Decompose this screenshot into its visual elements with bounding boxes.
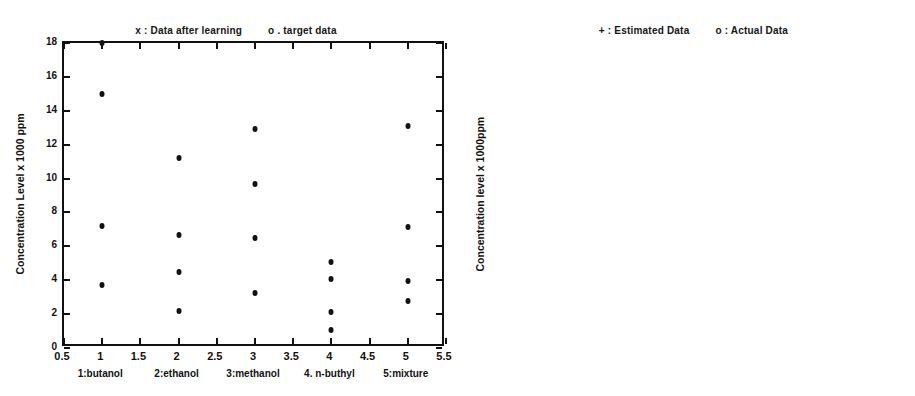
x-tick-label: 2.5 xyxy=(207,350,222,362)
y-tick-label: 2 xyxy=(0,307,57,318)
y-tick-label: 12 xyxy=(0,137,57,148)
x-tick-top xyxy=(292,43,294,49)
x-tick xyxy=(330,338,332,344)
x-tick xyxy=(178,338,180,344)
x-tick-label: 1.5 xyxy=(131,350,146,362)
category-label: 4. n-buthyl xyxy=(304,368,355,379)
y-tick-right xyxy=(436,245,442,247)
y-tick-label: 16 xyxy=(0,69,57,80)
data-point-dot xyxy=(100,91,105,97)
data-point-dot xyxy=(176,155,181,161)
y-tick-label: 10 xyxy=(0,171,57,182)
y-tick-label: 16 xyxy=(460,36,915,47)
y-tick-label: 0 xyxy=(460,341,915,352)
data-point-dot xyxy=(253,126,258,132)
y-tick-label: 8 xyxy=(0,205,57,216)
x-tick-top xyxy=(445,43,447,49)
data-point-dot xyxy=(405,298,410,304)
x-tick-top xyxy=(101,43,103,49)
data-point-dot xyxy=(100,223,105,229)
x-tick-label: 4 xyxy=(326,350,332,362)
y-tick-label: 4 xyxy=(460,264,915,275)
y-tick-label: 2 xyxy=(460,302,915,313)
x-tick-label: 5 xyxy=(403,350,409,362)
x-tick-label: 5.5 xyxy=(436,350,451,362)
x-tick xyxy=(369,338,371,344)
y-tick-right xyxy=(436,42,442,44)
data-point-dot xyxy=(253,290,258,296)
x-tick xyxy=(216,338,218,344)
y-tick-right xyxy=(436,347,442,349)
data-point-dot xyxy=(253,181,258,187)
x-tick-top xyxy=(139,43,141,49)
x-tick-label: 3.5 xyxy=(284,350,299,362)
legend-entry-actual: o : Actual Data xyxy=(715,25,788,36)
x-tick xyxy=(63,338,65,344)
data-point-dot xyxy=(176,308,181,314)
data-point-dot xyxy=(405,123,410,129)
y-tick-label: 18 xyxy=(0,36,57,47)
data-point-dot xyxy=(405,278,410,284)
x-tick xyxy=(292,338,294,344)
category-label: 2:ethanol xyxy=(154,368,198,379)
x-tick-top xyxy=(407,43,409,49)
x-tick xyxy=(407,338,409,344)
data-point-dot xyxy=(329,309,334,315)
x-tick xyxy=(445,338,447,344)
x-tick xyxy=(139,338,141,344)
y-tick xyxy=(64,313,70,315)
y-tick-right xyxy=(436,313,442,315)
chart-left: x : Data after learningo . target data C… xyxy=(0,0,460,396)
x-tick xyxy=(101,338,103,344)
legend-entry-estimated: + : Estimated Data xyxy=(599,25,690,36)
x-tick-label: 2 xyxy=(174,350,180,362)
y-tick xyxy=(64,76,70,78)
y-tick-label: 6 xyxy=(460,226,915,237)
y-tick-label: 0 xyxy=(0,341,57,352)
y-tick-label: 4 xyxy=(0,273,57,284)
y-tick-right xyxy=(436,144,442,146)
y-tick-right xyxy=(436,178,442,180)
y-tick-label: 6 xyxy=(0,239,57,250)
data-point-dot xyxy=(329,259,334,265)
category-label: 5:mixture xyxy=(383,368,428,379)
y-tick-right xyxy=(436,211,442,213)
chart-left-plot-area xyxy=(62,41,444,346)
legend-entry-learned: x : Data after learning xyxy=(135,25,242,36)
x-tick xyxy=(254,338,256,344)
x-tick-label: 1 xyxy=(97,350,103,362)
category-label: 1:butanol xyxy=(78,368,123,379)
y-tick-label: 8 xyxy=(460,188,915,199)
y-tick-label: 14 xyxy=(460,74,915,85)
y-tick xyxy=(64,110,70,112)
y-tick xyxy=(64,178,70,180)
x-tick-label: 3 xyxy=(250,350,256,362)
chart-right: + : Estimated Datao : Actual Data Concen… xyxy=(460,0,915,396)
data-point-dot xyxy=(176,232,181,238)
y-tick-label: 12 xyxy=(460,112,915,123)
y-tick-label: 10 xyxy=(460,150,915,161)
x-tick-top xyxy=(330,43,332,49)
data-point-dot xyxy=(253,235,258,241)
data-point-dot xyxy=(329,327,334,333)
legend-entry-target: o . target data xyxy=(268,25,337,36)
y-tick-label: 14 xyxy=(0,103,57,114)
y-tick-right xyxy=(436,110,442,112)
y-tick-right xyxy=(436,76,442,78)
x-tick-top xyxy=(63,43,65,49)
x-tick-label: 0.5 xyxy=(54,350,69,362)
category-label: 3:methanol xyxy=(226,368,279,379)
y-tick xyxy=(64,347,70,349)
data-point-dot xyxy=(100,282,105,288)
x-tick-top xyxy=(178,43,180,49)
x-tick-label: 4.5 xyxy=(360,350,375,362)
y-tick-right xyxy=(436,279,442,281)
y-tick xyxy=(64,144,70,146)
y-tick xyxy=(64,245,70,247)
y-tick xyxy=(64,211,70,213)
x-tick-top xyxy=(216,43,218,49)
x-tick-top xyxy=(369,43,371,49)
data-point-dot xyxy=(405,224,410,230)
data-point-dot xyxy=(329,276,334,282)
y-tick xyxy=(64,279,70,281)
